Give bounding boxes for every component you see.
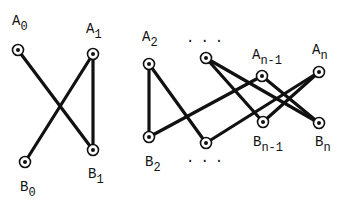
node-label-bn: Bn — [315, 134, 331, 155]
node-center-dot-icon — [23, 160, 27, 164]
node-center-dot-icon — [204, 141, 208, 145]
edge-a1-b0 — [25, 54, 93, 162]
ellipsis-top: ... — [186, 30, 229, 46]
node-label-an-1: An-1 — [252, 47, 282, 68]
node-bk — [201, 138, 212, 149]
node-a1 — [88, 49, 99, 60]
node-a0 — [13, 45, 24, 56]
node-label-b0: B0 — [20, 179, 36, 200]
bipartite-graph-diagram: A0A1B0B1A2An-1AnB2Bn-1Bn...... — [0, 0, 343, 205]
node-label-a0: A0 — [12, 13, 28, 34]
node-label-an: An — [312, 42, 328, 63]
node-center-dot-icon — [91, 52, 95, 56]
node-label-b2: B2 — [145, 154, 161, 175]
node-center-dot-icon — [91, 148, 95, 152]
node-center-dot-icon — [260, 74, 264, 78]
node-center-dot-icon — [317, 121, 321, 125]
node-bn-1 — [258, 117, 269, 128]
node-ak — [201, 53, 212, 64]
node-label-a1: A1 — [86, 21, 102, 42]
node-center-dot-icon — [147, 135, 151, 139]
node-label-b1: B1 — [88, 166, 104, 187]
node-label-a2: A2 — [142, 29, 158, 50]
node-a2 — [144, 59, 155, 70]
node-center-dot-icon — [147, 62, 151, 66]
node-center-dot-icon — [16, 48, 20, 52]
node-an — [314, 67, 325, 78]
node-an-1 — [257, 71, 268, 82]
node-center-dot-icon — [204, 56, 208, 60]
node-bn — [314, 118, 325, 129]
node-b2 — [144, 132, 155, 143]
node-label-bn-1: Bn-1 — [253, 134, 283, 155]
node-center-dot-icon — [261, 120, 265, 124]
node-center-dot-icon — [317, 70, 321, 74]
node-b1 — [88, 145, 99, 156]
ellipsis-bottom: ... — [186, 150, 229, 166]
edge-a0-b1 — [18, 50, 93, 150]
node-b0 — [20, 157, 31, 168]
